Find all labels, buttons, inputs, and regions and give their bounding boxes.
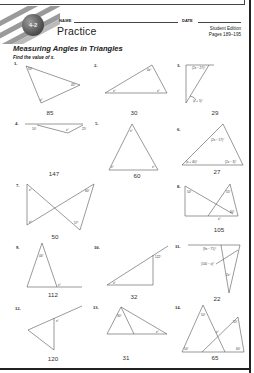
svg-text:55°: 55° xyxy=(233,320,238,324)
problem-14-answer: 65 xyxy=(200,354,230,361)
svg-text:60°: 60° xyxy=(236,347,241,351)
problem-14-diagram: 50° 55° x° 50° 60° xyxy=(0,0,254,373)
svg-text:50°: 50° xyxy=(201,313,206,317)
svg-text:50°: 50° xyxy=(184,347,189,351)
svg-text:x°: x° xyxy=(216,330,220,334)
